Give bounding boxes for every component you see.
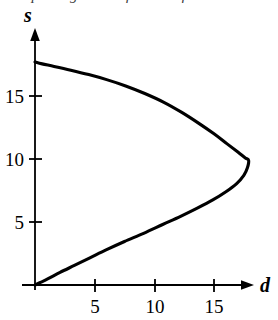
figure-container: exploring the usefulness of numbers to 1… bbox=[0, 0, 278, 320]
x-axis-title: d bbox=[260, 274, 271, 296]
y-tick-label-15: 15 bbox=[5, 86, 24, 107]
data-curve bbox=[35, 62, 249, 285]
y-tick-label-5: 5 bbox=[15, 212, 25, 233]
y-axis-arrow-icon bbox=[30, 28, 40, 41]
x-axis-arrow-icon bbox=[241, 280, 254, 290]
x-tick-label-10: 10 bbox=[146, 296, 165, 317]
y-tick-label-10: 10 bbox=[5, 149, 24, 170]
plot-svg: 15 10 5 5 10 15 s d bbox=[0, 0, 278, 320]
y-axis-tick-labels: 15 10 5 bbox=[5, 86, 24, 233]
x-axis-group bbox=[22, 280, 254, 290]
x-tick-label-5: 5 bbox=[90, 296, 100, 317]
x-tick-label-15: 15 bbox=[205, 296, 224, 317]
x-axis-tick-labels: 5 10 15 bbox=[90, 296, 223, 317]
y-axis-title: s bbox=[23, 4, 32, 26]
